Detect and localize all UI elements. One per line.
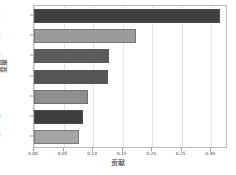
gridline-x <box>211 6 212 147</box>
bar-fill <box>34 90 88 104</box>
x-axis-title: 贡献 <box>0 160 236 167</box>
x-axis-tick-label: 0.00 <box>28 152 38 156</box>
bar <box>34 9 220 23</box>
x-axis-tick-label: 0.10 <box>87 152 97 156</box>
y-axis-title: 变量 <box>1 36 8 96</box>
x-axis-tick-label: 0.25 <box>176 152 186 156</box>
gridline-x <box>123 6 124 147</box>
bar-fill <box>34 70 108 84</box>
bar <box>34 49 109 63</box>
bar-fill <box>34 29 136 43</box>
bar-fill <box>34 49 109 63</box>
x-axis-tick-label: 0.20 <box>146 152 156 156</box>
bar-chart-figure: 脂肪肝评级生活年龄收入BMI血糖护理 0.000.050.100.150.200… <box>0 0 236 175</box>
x-axis-tick-label: 0.15 <box>117 152 127 156</box>
bar-fill <box>34 9 220 23</box>
bar <box>34 90 88 104</box>
gridline-x <box>152 6 153 147</box>
bar <box>34 110 83 124</box>
bar <box>34 29 136 43</box>
x-axis-tick-label: 0.05 <box>58 152 68 156</box>
bar <box>34 70 108 84</box>
gridline-x <box>182 6 183 147</box>
x-axis-tick-label: 0.30 <box>205 152 215 156</box>
plot-area <box>33 5 227 148</box>
bar-fill <box>34 110 83 124</box>
bar-fill <box>34 130 79 144</box>
bar <box>34 130 79 144</box>
